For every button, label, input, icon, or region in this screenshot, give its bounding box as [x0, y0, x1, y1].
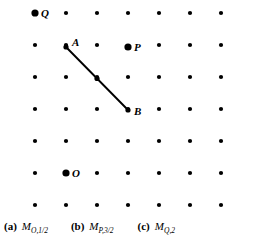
- emphasized-dot-q: [31, 9, 38, 16]
- lattice-dot: [219, 43, 223, 47]
- caption-b-subscript: P,3/2: [99, 226, 114, 235]
- emphasized-point-dots: [31, 9, 131, 176]
- lattice-dot: [95, 107, 99, 111]
- caption-c-subscript: Q,2: [164, 226, 175, 235]
- lattice-dot: [95, 171, 99, 175]
- lattice-dot: [188, 139, 192, 143]
- lattice-dot: [219, 107, 223, 111]
- lattice-dot: [157, 43, 161, 47]
- lattice-dot: [157, 75, 161, 79]
- lattice-dot: [219, 171, 223, 175]
- lattice-dot: [188, 171, 192, 175]
- lattice-dot: [95, 139, 99, 143]
- lattice-dot: [33, 107, 37, 111]
- lattice-dot: [126, 171, 130, 175]
- lattice-dot: [188, 11, 192, 15]
- lattice-dot: [33, 203, 37, 207]
- lattice-dot: [95, 203, 99, 207]
- caption-row: (a)MO,1/2 (b)MP,3/2 (c)MQ,2: [0, 220, 256, 242]
- segment-ab: [63, 44, 130, 112]
- lattice-dot: [219, 11, 223, 15]
- caption-a-subscript: O,1/2: [31, 226, 48, 235]
- caption-c-tag: (c): [138, 220, 150, 232]
- lattice-dot: [157, 139, 161, 143]
- lattice-dot: [33, 75, 37, 79]
- point-label-q: Q: [41, 8, 49, 19]
- lattice-canvas: [0, 0, 256, 247]
- point-label-o: O: [72, 168, 80, 179]
- segment-endpoint-a: [63, 44, 68, 49]
- caption-b-tag: (b): [71, 220, 84, 232]
- caption-b: (b)MP,3/2: [71, 220, 114, 235]
- segment-endpoint-b: [125, 107, 130, 112]
- lattice-dot: [219, 75, 223, 79]
- lattice-dot: [157, 11, 161, 15]
- lattice-dot: [188, 75, 192, 79]
- emphasized-dot-o: [62, 169, 69, 176]
- lattice-dot: [64, 11, 68, 15]
- caption-a-symbol: M: [22, 220, 31, 232]
- lattice-dot: [157, 171, 161, 175]
- lattice-dot: [219, 139, 223, 143]
- lattice-dot: [33, 171, 37, 175]
- emphasized-dot-p: [124, 43, 131, 50]
- lattice-dot: [95, 43, 99, 47]
- lattice-dot: [157, 107, 161, 111]
- lattice-dot: [95, 11, 99, 15]
- lattice-dot: [33, 139, 37, 143]
- lattice-dot: [188, 43, 192, 47]
- lattice-dot: [188, 107, 192, 111]
- lattice-dot: [64, 75, 68, 79]
- lattice-dot: [64, 107, 68, 111]
- lattice-dot: [64, 203, 68, 207]
- lattice-dot: [219, 203, 223, 207]
- lattice-dot: [126, 75, 130, 79]
- caption-a: (a)MO,1/2: [4, 220, 48, 235]
- lattice-dot: [157, 203, 161, 207]
- segment-midpoint-dot: [94, 76, 99, 81]
- caption-b-symbol: M: [89, 220, 98, 232]
- lattice-figure: Q P O A B (a)MO,1/2 (b)MP,3/2 (c)MQ,2: [0, 0, 256, 247]
- lattice-dot: [188, 203, 192, 207]
- lattice-dot: [126, 11, 130, 15]
- point-label-p: P: [134, 42, 141, 53]
- caption-a-tag: (a): [4, 220, 17, 232]
- caption-c-symbol: M: [155, 220, 164, 232]
- point-label-b: B: [134, 106, 141, 117]
- lattice-dot: [126, 139, 130, 143]
- lattice-dot: [64, 139, 68, 143]
- caption-c: (c)MQ,2: [138, 220, 175, 235]
- lattice-dot: [33, 43, 37, 47]
- point-label-a: A: [72, 37, 79, 48]
- lattice-dot: [126, 203, 130, 207]
